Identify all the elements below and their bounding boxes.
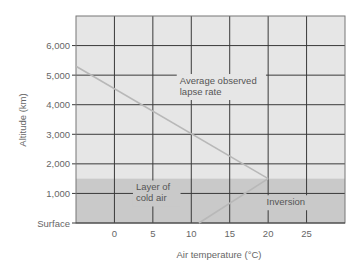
annotation-text: Inversion [267, 196, 306, 207]
y-tick-label: 1,000 [46, 188, 70, 199]
y-tick-label: 3,000 [46, 129, 70, 140]
y-tick-label: Surface [37, 218, 70, 229]
x-tick-label: 5 [150, 228, 155, 239]
x-tick-label: 10 [186, 228, 197, 239]
x-tick-label: 0 [112, 228, 117, 239]
y-tick-label: 4,000 [46, 99, 70, 110]
x-tick-label: 15 [224, 228, 235, 239]
annotation-text: cold air [136, 192, 167, 203]
annotation-text: Average observed [180, 75, 257, 86]
x-axis-ticks: 0510152025 [112, 228, 312, 239]
x-tick-label: 25 [301, 228, 312, 239]
annotation-text: lapse rate [180, 86, 222, 97]
y-axis-label: Altitude (km) [17, 93, 28, 146]
x-axis-label: Air temperature (°C) [176, 249, 261, 260]
annotation-text: Layer of [136, 181, 171, 192]
y-axis-ticks: Surface1,0002,0003,0004,0005,0006,000 [37, 40, 70, 228]
x-tick-label: 20 [263, 228, 274, 239]
y-tick-label: 6,000 [46, 40, 70, 51]
y-tick-label: 2,000 [46, 158, 70, 169]
chart: Average observedlapse rateLayer ofcold a… [0, 0, 364, 273]
y-tick-label: 5,000 [46, 70, 70, 81]
